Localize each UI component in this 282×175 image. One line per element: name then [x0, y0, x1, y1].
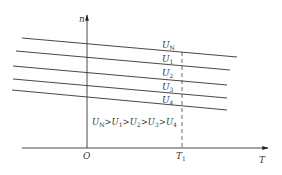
- curve-line-u4: [12, 90, 227, 110]
- speed-torque-diagram: n T O T1 UNU1U2U3U4 UN>U1>U2>U3>U4: [0, 0, 282, 175]
- curve-label-u2: U2: [162, 68, 174, 79]
- voltage-relation-label: UN>U1>U2>U3>U4: [92, 117, 177, 128]
- y-axis-label: n: [79, 14, 85, 24]
- curve-label-u3: U3: [162, 82, 174, 93]
- curve-label-u4: U4: [162, 95, 174, 106]
- curve-label-u1: U1: [162, 54, 173, 65]
- voltage-curves: UNU1U2U3U4: [12, 38, 237, 110]
- curve-label-un: UN: [162, 40, 175, 51]
- origin-label: O: [83, 151, 91, 161]
- x-axis-label: T: [259, 155, 266, 165]
- t1-label: T1: [176, 151, 186, 162]
